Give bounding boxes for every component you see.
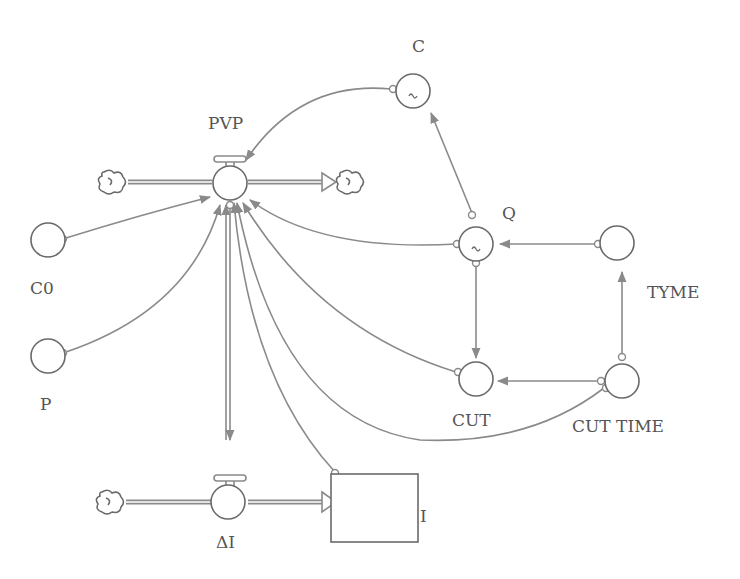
label-i: I xyxy=(420,506,427,526)
deltai-flow[interactable] xyxy=(126,475,336,519)
label-cut-time: CUT TIME xyxy=(572,416,664,436)
pvp-flow[interactable] xyxy=(128,156,336,200)
aux-q[interactable] xyxy=(459,227,493,261)
connector-origins xyxy=(60,86,626,477)
aux-tyme[interactable] xyxy=(600,226,634,260)
label-p: P xyxy=(40,394,51,414)
connector-i-pvp xyxy=(234,203,335,472)
aux-cut-time[interactable] xyxy=(605,364,639,398)
connector-p-pvp xyxy=(66,205,220,352)
pvp-source-cloud-icon xyxy=(98,170,125,194)
deltai-source-cloud-icon xyxy=(96,490,123,514)
connector-cuttime-pvp xyxy=(237,203,604,440)
connectors xyxy=(66,88,622,472)
connector-q-pvp xyxy=(250,200,457,245)
pvp-flow-arrowhead xyxy=(322,173,336,191)
label-q: Q xyxy=(502,203,516,223)
connector-c0-pvp xyxy=(66,197,210,238)
label-c0: C0 xyxy=(30,278,54,298)
pvp-valve[interactable] xyxy=(213,166,247,200)
deltai-valve-handle xyxy=(214,475,246,481)
label-c: C xyxy=(412,36,425,56)
label-pvp: PVP xyxy=(208,113,243,133)
label-tyme: TYME xyxy=(647,282,699,302)
deltai-valve[interactable] xyxy=(211,485,245,519)
connector-cut-pvp xyxy=(243,203,456,372)
label-delta-i: ΔI xyxy=(216,532,235,552)
aux-p[interactable] xyxy=(31,339,65,373)
aux-c0[interactable] xyxy=(31,223,65,257)
aux-c[interactable] xyxy=(396,74,430,108)
aux-cut[interactable] xyxy=(459,362,493,396)
stock-i[interactable] xyxy=(331,474,418,542)
connector-c-pvp xyxy=(246,88,391,160)
pvp-sink-cloud-icon xyxy=(336,170,363,194)
label-cut: CUT xyxy=(452,410,491,430)
stock-flow-diagram xyxy=(0,0,740,579)
connector-q-c xyxy=(431,113,472,213)
pvp-valve-handle xyxy=(214,156,246,162)
